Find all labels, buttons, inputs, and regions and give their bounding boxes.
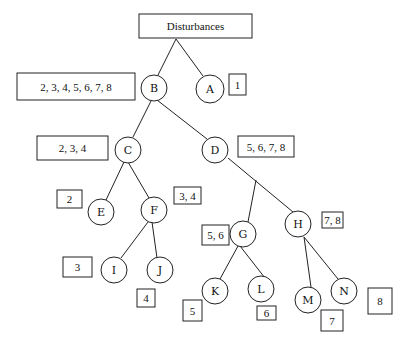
- node-label: G: [239, 228, 248, 241]
- annotation-label: 2: [67, 193, 73, 205]
- box-B-annotation: 2, 3, 4, 5, 6, 7, 8: [17, 73, 135, 100]
- annotation-label: 2, 3, 4, 5, 6, 7, 8: [40, 81, 112, 93]
- node-label: J: [157, 264, 162, 277]
- annotation-label: 3, 4: [179, 190, 196, 202]
- node-e: E: [88, 199, 114, 225]
- annotation-label: 8: [377, 295, 383, 307]
- box-C-annotation: 2, 3, 4: [37, 136, 108, 160]
- annotation-label: 6: [264, 307, 270, 319]
- box-D-annotation: 5, 6, 7, 8: [238, 136, 294, 157]
- node-label: B: [150, 82, 158, 95]
- node-f: F: [141, 197, 167, 223]
- box-E-annotation: 2: [57, 190, 82, 208]
- root-node-disturbances: Disturbances: [139, 14, 252, 38]
- node-label: L: [257, 283, 265, 296]
- box-N-annotation: 8: [368, 288, 392, 314]
- node-j: J: [147, 257, 173, 283]
- box-H-annotation: 7, 8: [322, 212, 343, 228]
- box-F-annotation: 3, 4: [174, 187, 201, 204]
- node-h: H: [285, 211, 311, 237]
- node-label: I: [112, 264, 116, 277]
- box-L-annotation: 6: [257, 306, 276, 320]
- tree-edge: [248, 180, 256, 222]
- tree-edge: [152, 222, 157, 258]
- disturbance-tree-diagram: Disturbances BACDEFGHIJKLMN 2, 3, 4, 5, …: [0, 0, 411, 347]
- annotation-label: 3: [75, 261, 81, 273]
- node-a: A: [196, 75, 224, 103]
- node-k: K: [202, 278, 228, 304]
- box-J-annotation: 4: [137, 289, 155, 307]
- annotation-label: 7, 8: [324, 214, 341, 226]
- annotation-label: 2, 3, 4: [59, 142, 87, 154]
- box-M-annotation: 7: [321, 310, 343, 331]
- tree-edge: [106, 162, 124, 200]
- node-g: G: [230, 221, 256, 247]
- annotation-label: 1: [235, 79, 241, 91]
- tree-edge: [220, 246, 238, 279]
- tree-edge: [240, 246, 265, 278]
- node-c: C: [115, 137, 141, 163]
- annotation-label: 5: [190, 305, 196, 317]
- box-I-annotation: 3: [63, 257, 92, 277]
- node-label: H: [293, 218, 303, 231]
- node-i: I: [101, 257, 127, 283]
- root-label: Disturbances: [167, 20, 224, 32]
- node-label: N: [339, 285, 349, 298]
- node-l: L: [248, 276, 274, 302]
- annotation-label: 5, 6, 7, 8: [247, 141, 286, 153]
- tree-edge: [121, 222, 148, 258]
- node-n: N: [331, 278, 357, 304]
- node-label: M: [302, 294, 313, 307]
- box-A-annotation: 1: [229, 74, 246, 95]
- tree-nodes: BACDEFGHIJKLMN: [88, 75, 357, 313]
- node-label: E: [97, 206, 105, 219]
- annotation-label: 4: [143, 292, 149, 304]
- node-label: D: [211, 144, 220, 157]
- tree-edges: [106, 39, 338, 287]
- node-label: A: [205, 83, 215, 96]
- tree-edge: [128, 162, 149, 198]
- node-label: C: [124, 144, 132, 157]
- box-G-annotation: 5, 6: [202, 225, 229, 245]
- node-label: K: [211, 285, 220, 298]
- tree-edge: [228, 158, 293, 212]
- node-d: D: [202, 137, 228, 163]
- tree-edge: [176, 39, 203, 76]
- tree-edge: [158, 39, 176, 75]
- annotation-label: 5, 6: [207, 229, 224, 241]
- tree-edge: [133, 101, 151, 137]
- tree-edge: [157, 100, 207, 139]
- node-m: M: [295, 287, 321, 313]
- annotation-label: 7: [329, 315, 335, 327]
- node-label: F: [150, 204, 158, 217]
- node-b: B: [141, 75, 167, 101]
- box-K-annotation: 5: [183, 300, 202, 321]
